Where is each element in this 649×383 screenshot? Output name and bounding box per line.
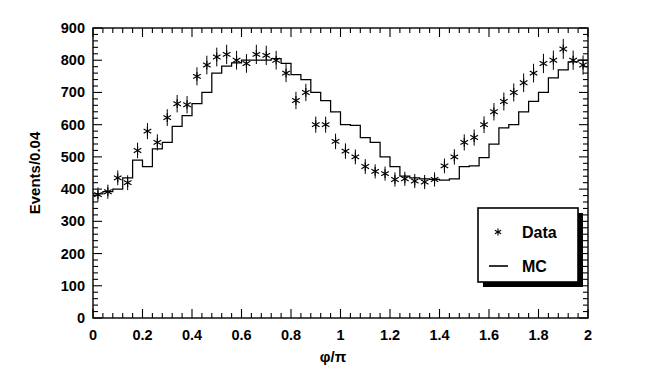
x-tick-label: 0.6: [231, 327, 251, 343]
physics-histogram-figure: 00.20.40.60.811.21.41.61.82 010020030040…: [0, 0, 649, 383]
legend-label-mc: MC: [522, 258, 547, 275]
mc-step-histogram: [93, 59, 588, 194]
y-tick-label: 800: [61, 52, 85, 68]
y-tick-label: 200: [61, 246, 85, 262]
x-tick-label: 0.8: [281, 327, 301, 343]
y-tick-label: 500: [61, 149, 85, 165]
y-axis-tick-labels: 0100200300400500600700800900: [61, 20, 85, 326]
x-tick-label: 0.2: [132, 327, 152, 343]
y-tick-label: 700: [61, 84, 85, 100]
x-axis-tick-labels: 00.20.40.60.811.21.41.61.82: [89, 327, 592, 343]
x-tick-label: 1.8: [528, 327, 548, 343]
legend-label-data: Data: [522, 224, 557, 241]
y-tick-label: 600: [61, 117, 85, 133]
x-tick-label: 2: [584, 327, 592, 343]
x-tick-label: 1.4: [429, 327, 449, 343]
y-tick-label: 100: [61, 278, 85, 294]
y-tick-label: 900: [61, 20, 85, 36]
y-tick-label: 400: [61, 181, 85, 197]
x-tick-label: 1.6: [479, 327, 499, 343]
y-tick-label: 300: [61, 213, 85, 229]
y-tick-label: 0: [77, 310, 85, 326]
x-axis-title: φ/π: [320, 348, 347, 365]
y-axis-title: Events/0.04: [26, 131, 43, 214]
x-tick-label: 1: [336, 327, 344, 343]
x-tick-label: 1.2: [380, 327, 400, 343]
x-tick-label: 0: [89, 327, 97, 343]
x-tick-label: 0.4: [182, 327, 202, 343]
chart-legend: Data MC: [478, 208, 583, 287]
